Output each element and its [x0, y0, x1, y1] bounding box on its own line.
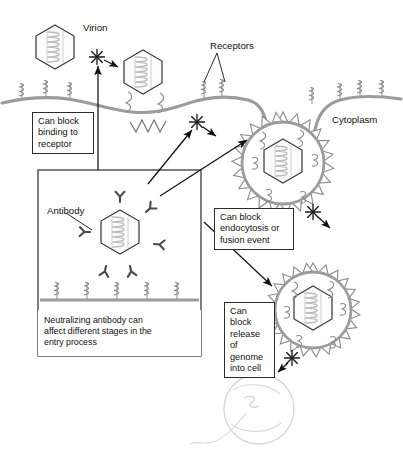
leader-lines — [204, 53, 225, 82]
inset-caption: Neutralizing antibody can affect differe… — [38, 310, 201, 356]
block-marker-release — [278, 351, 300, 373]
endocytosis-vesicle — [232, 112, 334, 214]
block-marker-endocytosis — [190, 115, 217, 137]
callout-block-binding: Can block binding to receptor — [32, 112, 94, 154]
block-marker-fusion — [306, 205, 331, 229]
endosome-with-virion — [266, 263, 360, 357]
diagram-canvas: Virion Receptors Cytoplasm Antibody Can … — [0, 0, 403, 474]
label-virion: Virion — [83, 22, 107, 33]
receptor-bound-virion — [124, 50, 166, 132]
label-cytoplasm: Cytoplasm — [332, 114, 377, 125]
callout-block-release: Can block release of genome into cell — [224, 302, 275, 378]
label-receptors: Receptors — [210, 40, 254, 51]
nucleus — [190, 374, 294, 444]
callout-block-endocytosis: Can block endocytosis or fusion event — [214, 208, 294, 250]
label-antibody: Antibody — [47, 205, 84, 216]
arrow-inset-to-vesicle — [160, 140, 247, 196]
free-virion — [36, 25, 74, 69]
diagram-graphics — [0, 0, 403, 474]
fusion-zigzag-icon — [130, 120, 166, 132]
block-marker-binding — [90, 50, 119, 68]
